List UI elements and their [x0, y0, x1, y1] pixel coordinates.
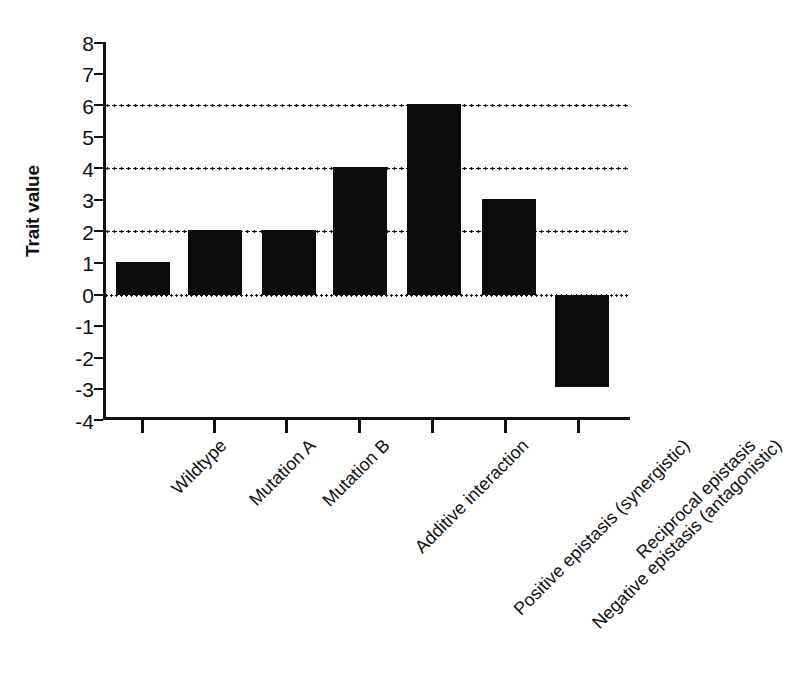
- x-tick-reciprocal-epistasis: [577, 420, 580, 433]
- y-tick-label-2: 2: [50, 221, 94, 245]
- y-tick-neg2: [94, 357, 103, 359]
- gridline-6: [104, 104, 630, 107]
- x-label-reciprocal-epistasis: Reciprocal epistasis: [633, 436, 760, 563]
- x-tick-mutation-b: [285, 420, 288, 433]
- y-tick-label-neg1: -1: [44, 315, 94, 339]
- x-tick-mutation-a: [213, 420, 216, 433]
- bar-additive-interaction: [333, 167, 387, 295]
- bar-mutation-a: [188, 230, 242, 295]
- y-tick-neg1: [94, 325, 103, 327]
- y-tick-2: [94, 230, 103, 232]
- y-tick-7: [94, 73, 103, 75]
- bar-mutation-b: [262, 230, 316, 295]
- bar-negative-epistasis: [482, 199, 536, 295]
- y-tick-neg4: [94, 419, 103, 421]
- y-axis-title: Trait value: [22, 151, 44, 271]
- x-label-negative-epistasis: Negative epistasis (antagonistic): [589, 436, 786, 633]
- bar-positive-epistasis: [407, 104, 461, 295]
- y-tick-0: [94, 294, 103, 296]
- x-label-mutation-a: Mutation A: [246, 436, 320, 510]
- y-tick-label-7: 7: [50, 63, 94, 87]
- y-tick-label-4: 4: [50, 158, 94, 182]
- bar-reciprocal-epistasis: [555, 295, 609, 387]
- y-tick-label-neg2: -2: [44, 347, 94, 371]
- y-tick-4: [94, 167, 103, 169]
- y-tick-5: [94, 136, 103, 138]
- y-tick-8: [94, 42, 103, 44]
- x-tick-positive-epistasis: [431, 420, 434, 433]
- y-tick-6: [94, 104, 103, 106]
- y-tick-label-neg4: -4: [44, 410, 94, 434]
- y-tick-label-1: 1: [50, 252, 94, 276]
- y-tick-label-0: 0: [50, 284, 94, 308]
- bar-wildtype: [116, 262, 170, 295]
- y-tick-label-3: 3: [50, 189, 94, 213]
- x-label-additive-interaction: Additive interaction: [412, 436, 533, 557]
- x-tick-additive-interaction: [358, 420, 361, 433]
- x-tick-wildtype: [141, 420, 144, 433]
- y-tick-3: [94, 199, 103, 201]
- y-tick-label-neg3: -3: [44, 378, 94, 402]
- x-label-wildtype: Wildtype: [168, 436, 230, 498]
- y-tick-neg3: [94, 388, 103, 390]
- x-label-mutation-b: Mutation B: [319, 436, 393, 510]
- y-tick-1: [94, 262, 103, 264]
- plot-area: [103, 42, 630, 420]
- y-tick-label-5: 5: [50, 126, 94, 150]
- y-tick-label-8: 8: [50, 32, 94, 56]
- x-tick-negative-epistasis: [504, 420, 507, 433]
- x-axis-line: [103, 417, 630, 420]
- y-tick-label-6: 6: [50, 95, 94, 119]
